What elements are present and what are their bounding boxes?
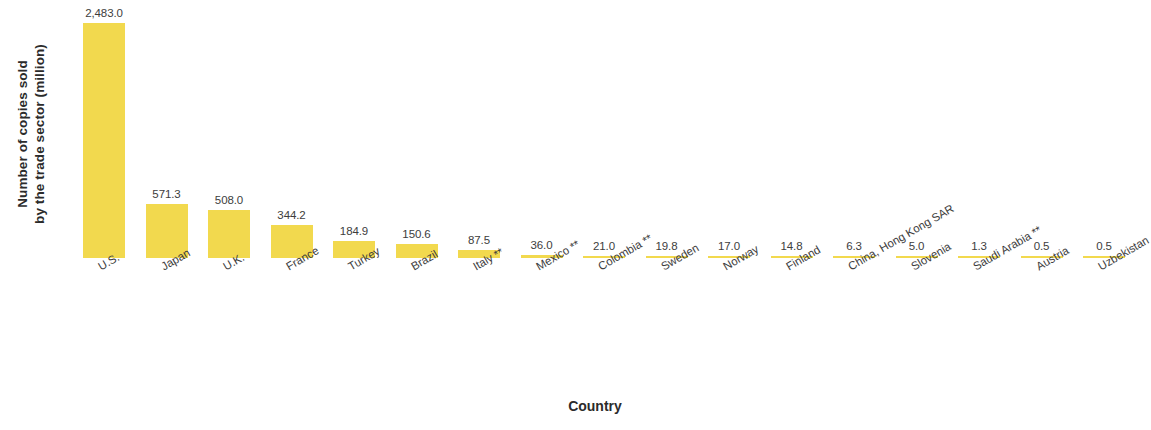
bar-value-label: 19.8: [656, 240, 678, 253]
bar-value-label: 87.5: [468, 234, 490, 247]
bar-group[interactable]: 14.8: [771, 0, 813, 258]
bar-value-label: 2,483.0: [85, 7, 123, 20]
x-axis-title: Country: [62, 398, 1128, 414]
bar-value-label: 1.3: [971, 240, 987, 253]
bar-rect[interactable]: [208, 210, 250, 258]
bar-group[interactable]: 184.9: [333, 0, 375, 258]
y-axis-title-line-1: Number of copies sold: [14, 44, 31, 224]
y-axis-title-line-2: by the trade sector (million): [31, 44, 48, 224]
bar-group[interactable]: 0.5: [1021, 0, 1063, 258]
bar-group[interactable]: 1.3: [958, 0, 1000, 258]
bar-value-label: 150.6: [402, 228, 430, 241]
bar-group[interactable]: 21.0: [583, 0, 625, 258]
x-axis-category-labels: U.S.JapanU.K.FranceTurkeyBrazilItaly **M…: [62, 258, 1128, 383]
bar-value-label: 0.5: [1096, 240, 1112, 253]
bar-value-label: 0.5: [1034, 240, 1050, 253]
bar-value-label: 17.0: [718, 240, 740, 253]
bar-value-label: 508.0: [215, 194, 243, 207]
bar-group[interactable]: 344.2: [271, 0, 313, 258]
bar-group[interactable]: 17.0: [708, 0, 750, 258]
bar-group[interactable]: 36.0: [521, 0, 563, 258]
bar-value-label: 344.2: [277, 209, 305, 222]
bar-value-label: 5.0: [909, 240, 925, 253]
bar-value-label: 21.0: [593, 240, 615, 253]
bar-group[interactable]: 150.6: [396, 0, 438, 258]
bar-group[interactable]: 87.5: [458, 0, 500, 258]
bar-rect[interactable]: [83, 23, 125, 258]
bar-group[interactable]: 2,483.0: [83, 0, 125, 258]
bar-group[interactable]: 6.3: [833, 0, 875, 258]
bar-group[interactable]: 19.8: [646, 0, 688, 258]
bar-value-label: 184.9: [340, 225, 368, 238]
bar-group[interactable]: 571.3: [146, 0, 188, 258]
bar-chart-plot-area: 2,483.0571.3508.0344.2184.9150.687.536.0…: [62, 0, 1128, 258]
bar-group[interactable]: 0.5: [1083, 0, 1125, 258]
bar-value-label: 6.3: [846, 240, 862, 253]
bar-value-label: 571.3: [152, 188, 180, 201]
y-axis-title: Number of copies sold by the trade secto…: [0, 0, 62, 268]
bar-group[interactable]: 508.0: [208, 0, 250, 258]
bar-value-label: 14.8: [781, 240, 803, 253]
bar-value-label: 36.0: [531, 239, 553, 252]
